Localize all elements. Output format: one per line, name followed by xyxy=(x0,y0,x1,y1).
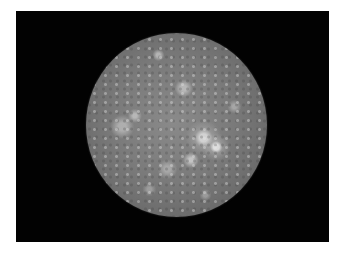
moon-sphere xyxy=(86,33,267,217)
image-frame xyxy=(16,11,329,242)
cut-off-caption xyxy=(16,244,329,253)
